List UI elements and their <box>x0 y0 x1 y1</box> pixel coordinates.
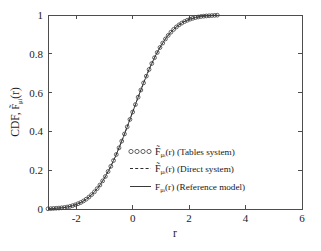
y-tick-label: 0.4 <box>29 125 43 137</box>
x-tick-label: 6 <box>299 212 305 224</box>
y-axis-label-prefix: CDF, <box>9 110 22 137</box>
legend-label-tables-system: F̃μi(r) (Tables system) <box>155 145 235 158</box>
y-axis-label-suffix: (r) <box>9 87 22 99</box>
x-tick-label: 0 <box>130 212 136 224</box>
legend-entry-direct-system: F̃μi(r) (Direct system) <box>130 162 234 175</box>
legend-label-direct-system: F̃μi(r) (Direct system) <box>155 162 234 175</box>
figure-container: -20246 00.20.40.60.81 r CDF, F̃μi(r) <box>0 0 321 251</box>
legend-entry-tables-system: F̃μi(r) (Tables system) <box>129 145 235 158</box>
x-axis-label: r <box>173 227 177 239</box>
x-axis-ticks <box>76 15 302 209</box>
y-tick-label: 0 <box>38 203 44 215</box>
y-tick-label: 0.2 <box>29 164 43 176</box>
y-tick-label: 1 <box>38 9 44 21</box>
x-tick-label: 2 <box>186 212 192 224</box>
plot-frame <box>48 15 302 209</box>
circle-marker-icon <box>129 149 151 153</box>
legend: F̃μi(r) (Tables system) F̃μi(r) (Direct … <box>129 145 245 193</box>
legend-entry-reference-model: Fμi(r) (Reference model) <box>130 182 245 193</box>
reference-model-curve <box>48 15 217 209</box>
y-tick-label: 0.6 <box>29 87 43 99</box>
x-tick-label: 4 <box>243 212 249 224</box>
svg-text:CDF, F̃μi(r): CDF, F̃μi(r) <box>9 87 24 137</box>
y-axis-label: CDF, F̃μi(r) <box>9 87 24 137</box>
x-tick-label: -2 <box>72 212 81 224</box>
x-axis-tick-labels: -20246 <box>72 212 306 224</box>
cdf-plot: -20246 00.20.40.60.81 r CDF, F̃μi(r) <box>0 0 321 251</box>
legend-label-reference-model: Fμi(r) (Reference model) <box>155 182 245 193</box>
y-axis-ticks <box>48 15 302 209</box>
y-axis-tick-labels: 00.20.40.60.81 <box>29 9 43 215</box>
y-tick-label: 0.8 <box>29 48 43 60</box>
